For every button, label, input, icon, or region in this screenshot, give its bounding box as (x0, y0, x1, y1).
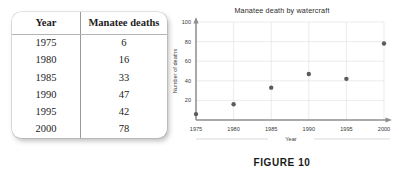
x-tick-label: 1985 (265, 126, 277, 132)
cell-deaths: 33 (80, 69, 167, 86)
figure-caption: FIGURE 10 (168, 157, 396, 168)
cell-deaths: 47 (80, 86, 167, 103)
cell-deaths: 6 (80, 35, 167, 53)
table-row: 2000 78 (12, 121, 167, 138)
cell-year: 1975 (12, 35, 80, 53)
y-tick-label: 20 (185, 97, 191, 103)
cell-deaths: 42 (80, 104, 167, 121)
vertical-gridlines (196, 22, 384, 120)
horizontal-gridlines (196, 22, 384, 100)
x-axis-title: Year (285, 136, 296, 142)
y-tick-label: 80 (185, 39, 191, 45)
chart-canvas: 20406080100 197519801985199019952000 Num… (168, 4, 396, 152)
table-row: 1995 42 (12, 104, 167, 121)
x-tick-labels: 197519801985199019952000 (190, 126, 390, 132)
y-tick-label: 60 (185, 58, 191, 64)
table-row: 1975 6 (12, 35, 167, 53)
y-tick-label: 100 (182, 19, 191, 25)
table-row: 1990 47 (12, 86, 167, 103)
scatter-chart: Manatee death by watercraft 20406080100 … (168, 4, 396, 152)
y-tick-labels: 20406080100 (182, 19, 191, 103)
data-points (194, 41, 386, 116)
x-tick-label: 1995 (340, 126, 352, 132)
data-point (269, 85, 273, 89)
data-point (307, 72, 311, 76)
column-header-manatee-deaths: Manatee deaths (80, 12, 167, 35)
x-tick-label: 1980 (227, 126, 239, 132)
data-point (382, 41, 386, 45)
x-tick-label: 1990 (303, 126, 315, 132)
cell-year: 1995 (12, 104, 80, 121)
table-row: 1985 33 (12, 69, 167, 86)
cell-year: 1985 (12, 69, 80, 86)
cell-year: 1980 (12, 52, 80, 69)
manatee-data-table: Year Manatee deaths 1975 6 1980 16 1985 … (12, 12, 167, 138)
table-body: 1975 6 1980 16 1985 33 1990 47 1995 42 (12, 35, 167, 139)
cell-year: 1990 (12, 86, 80, 103)
y-axis-title: Number of deaths (172, 49, 178, 94)
cell-year: 2000 (12, 121, 80, 138)
table-head: Year Manatee deaths (12, 12, 167, 35)
data-point (231, 102, 235, 106)
x-tick-label: 1975 (190, 126, 202, 132)
cell-deaths: 78 (80, 121, 167, 138)
cell-deaths: 16 (80, 52, 167, 69)
figure-page: Year Manatee deaths 1975 6 1980 16 1985 … (0, 0, 399, 178)
y-tick-label: 40 (185, 78, 191, 84)
data-point (344, 77, 348, 81)
x-axis-arrow-icon (386, 117, 393, 122)
column-header-year: Year (12, 12, 80, 35)
data-point (194, 112, 198, 116)
table-header-row: Year Manatee deaths (12, 12, 167, 35)
table-row: 1980 16 (12, 52, 167, 69)
y-axis-arrow-icon (193, 17, 198, 24)
x-tick-label: 2000 (378, 126, 390, 132)
manatee-data-table-card: Year Manatee deaths 1975 6 1980 16 1985 … (12, 12, 167, 138)
